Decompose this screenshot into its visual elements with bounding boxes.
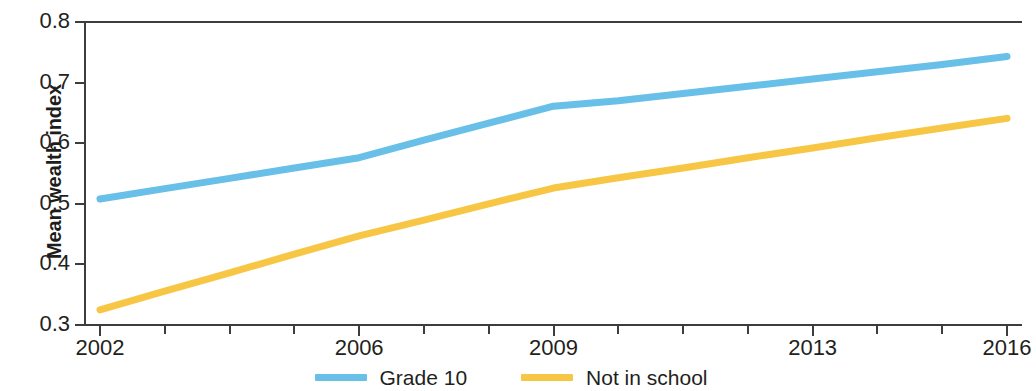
series-line-not-in-school <box>100 118 1007 310</box>
y-tick-mark <box>75 142 85 144</box>
y-tick-mark <box>75 203 85 205</box>
y-tick-mark <box>75 263 85 265</box>
chart-legend: Grade 10Not in school <box>0 364 1022 391</box>
legend-label: Not in school <box>586 366 707 389</box>
y-tick-mark <box>75 324 85 326</box>
legend-label: Grade 10 <box>380 366 468 389</box>
y-tick-mark <box>75 21 85 23</box>
series-line-grade-10 <box>100 57 1007 199</box>
legend-item-not-in-school[interactable]: Not in school <box>521 366 707 389</box>
y-tick-mark <box>75 82 85 84</box>
legend-swatch-icon <box>521 374 573 381</box>
legend-swatch-icon <box>315 374 367 381</box>
legend-item-grade-10[interactable]: Grade 10 <box>315 366 468 389</box>
